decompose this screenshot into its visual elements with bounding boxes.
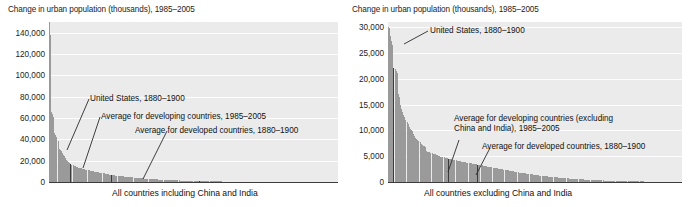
x-axis-label: All countries excluding China and India bbox=[424, 188, 572, 198]
annotation-average-developed: Average for developed countries, 1880–19… bbox=[135, 126, 298, 136]
annotation-average-developed: Average for developed countries, 1880–19… bbox=[482, 142, 645, 152]
panel-excluding-china-india: Change in urban population (thousands), … bbox=[344, 0, 688, 207]
annotation-average-developing: Average for developing countries (exclud… bbox=[454, 114, 634, 134]
annotation-united-states: United States, 1880–1900 bbox=[90, 94, 185, 104]
annotation-average-developing: Average for developing countries, 1985–2… bbox=[101, 112, 266, 122]
annotation-united-states: United States, 1880–1900 bbox=[430, 26, 525, 36]
figure-two-panel-bar-charts: Change in urban population (thousands), … bbox=[0, 0, 688, 207]
panel-all-countries: Change in urban population (thousands), … bbox=[0, 0, 344, 207]
x-axis-label: All countries including China and India bbox=[112, 188, 258, 198]
